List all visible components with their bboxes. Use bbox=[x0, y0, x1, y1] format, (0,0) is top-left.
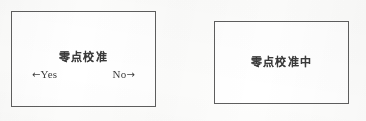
zero-calibration-progress-screen: 零点校准中 bbox=[214, 21, 349, 104]
progress-screen-content: 零点校准中 bbox=[215, 22, 348, 103]
zero-calibration-confirm-screen: 零点校准 ← Yes No → bbox=[11, 11, 156, 107]
confirm-screen-title: 零点校准 bbox=[12, 48, 155, 64]
arrow-left-icon: ← bbox=[32, 70, 41, 80]
yes-button-label: Yes bbox=[41, 68, 58, 80]
confirm-options-row: ← Yes No → bbox=[20, 68, 147, 80]
no-button-label: No bbox=[113, 68, 127, 80]
arrow-right-icon: → bbox=[126, 70, 135, 80]
yes-button[interactable]: ← Yes bbox=[32, 68, 57, 80]
progress-screen-title: 零点校准中 bbox=[215, 53, 348, 69]
no-button[interactable]: No → bbox=[113, 68, 135, 80]
confirm-screen-content: 零点校准 ← Yes No → bbox=[12, 12, 155, 106]
